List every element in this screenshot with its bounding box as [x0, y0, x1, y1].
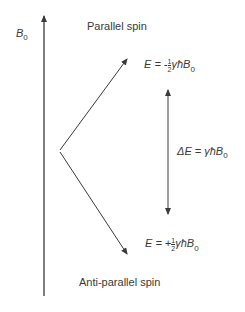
antiparallel-spin-label: Anti-parallel spin	[79, 276, 160, 288]
delta-e-label: ΔE = γħB0	[177, 145, 228, 160]
antiparallel-arrow	[60, 152, 127, 254]
parallel-spin-label: Parallel spin	[87, 20, 147, 32]
parallel-arrow	[60, 59, 127, 150]
lower-energy-label: E = +12γħB0	[145, 237, 199, 253]
upper-energy-label: E = -12γħB0	[144, 58, 195, 74]
b0-label: B0	[16, 27, 28, 42]
